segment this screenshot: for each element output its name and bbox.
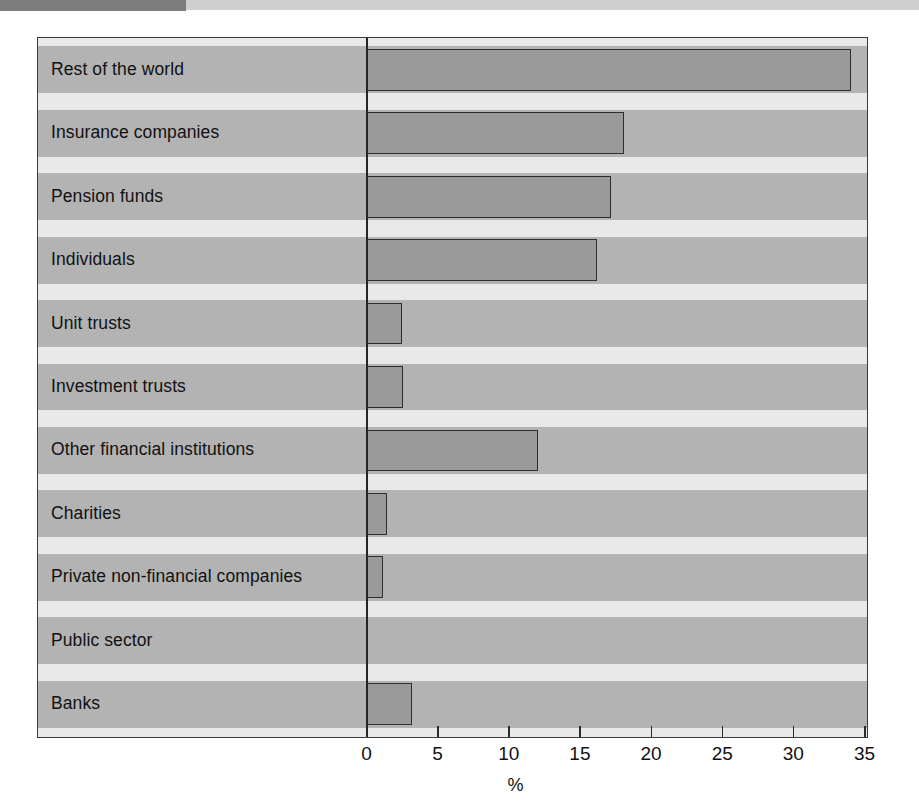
bar (366, 239, 597, 281)
bar (366, 556, 383, 598)
zero-axis-line (366, 38, 368, 737)
x-axis-tick-labels: 05101520253035 (37, 744, 868, 770)
x-tick-mark (793, 726, 795, 737)
bar (366, 430, 538, 472)
x-tick-mark (722, 726, 724, 737)
x-tick-label: 20 (640, 744, 661, 763)
x-tick-mark (437, 726, 439, 737)
x-tick-mark (651, 726, 653, 737)
category-band (38, 681, 867, 728)
category-label: Individuals (51, 251, 135, 269)
category-label: Insurance companies (51, 124, 219, 142)
category-label: Banks (51, 695, 100, 713)
bar (366, 49, 851, 91)
category-label: Private non-financial companies (51, 568, 302, 586)
category-label: Pension funds (51, 188, 163, 206)
x-tick-label: 30 (783, 744, 804, 763)
bar (366, 112, 624, 154)
bar-chart-figure: Rest of the worldInsurance companiesPens… (0, 0, 919, 809)
x-tick-mark (508, 726, 510, 737)
x-axis-title-text: % (507, 775, 523, 795)
category-label: Investment trusts (51, 378, 186, 396)
x-axis-title: % (0, 776, 919, 794)
category-label: Charities (51, 505, 121, 523)
bar (366, 683, 412, 725)
category-band (38, 300, 867, 347)
x-tick-label: 5 (432, 744, 443, 763)
category-label: Public sector (51, 632, 152, 650)
x-tick-label: 0 (361, 744, 372, 763)
bar (366, 493, 387, 535)
bar (366, 176, 611, 218)
bar (366, 366, 403, 408)
category-band (38, 617, 867, 664)
x-tick-mark (579, 726, 581, 737)
x-tick-mark (864, 726, 866, 737)
x-tick-label: 35 (854, 744, 875, 763)
bar (366, 303, 402, 345)
x-tick-label: 10 (498, 744, 519, 763)
category-label: Unit trusts (51, 315, 131, 333)
category-label: Rest of the world (51, 61, 184, 79)
x-tick-label: 25 (712, 744, 733, 763)
category-band (38, 490, 867, 537)
category-label: Other financial institutions (51, 441, 254, 459)
x-tick-label: 15 (569, 744, 590, 763)
plot-area: Rest of the worldInsurance companiesPens… (37, 37, 868, 738)
